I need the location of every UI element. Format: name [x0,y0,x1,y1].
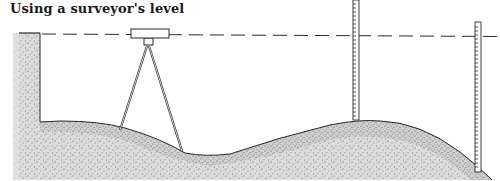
survey-diagram [0,0,500,181]
leveling-rod-right [475,22,481,172]
ground-profile [13,33,492,180]
sight-line [42,34,500,37]
leveling-rod-left [353,0,359,120]
